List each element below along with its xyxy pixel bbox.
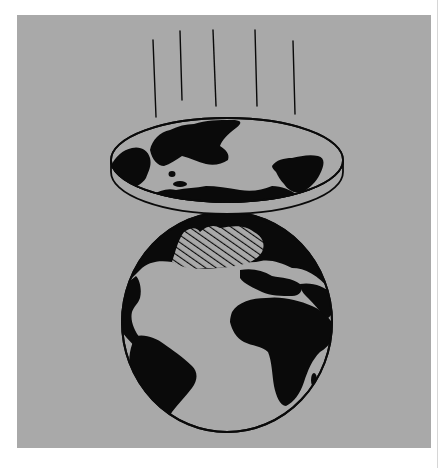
disc-island <box>169 171 176 177</box>
motion-line <box>255 30 257 106</box>
globe <box>110 205 342 432</box>
disc-island <box>173 181 187 187</box>
motion-line <box>180 31 182 100</box>
motion-line <box>293 41 295 114</box>
flat-earth-illustration <box>0 0 443 468</box>
motion-lines <box>153 30 295 117</box>
motion-line <box>153 40 156 117</box>
flat-earth-disc <box>110 118 343 214</box>
motion-line <box>213 30 216 106</box>
